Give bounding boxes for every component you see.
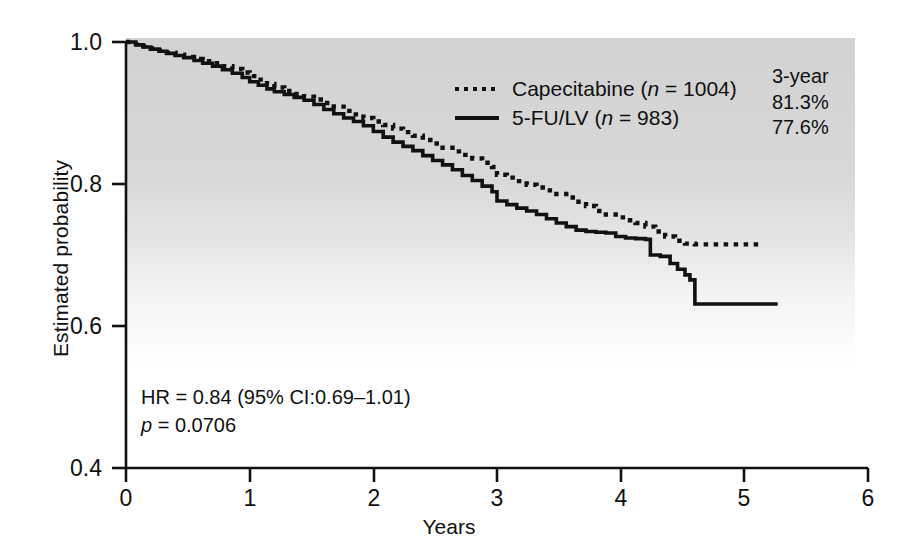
summary-header: 3-year: [772, 64, 829, 90]
x-tick-label-0: 0: [106, 487, 146, 510]
legend-label-5-fu-lv: 5-FU/LV (n = 983): [512, 106, 679, 130]
summary-value-5-fu-lv: 77.6%: [772, 115, 829, 141]
legend-label-capecitabine-tail: = 1004): [659, 77, 737, 100]
hazard-ratio-text: HR = 0.84 (95% CI:0.69–1.01): [141, 383, 411, 411]
x-tick-label-1: 1: [230, 487, 270, 510]
three-year-summary: 3-year 81.3% 77.6%: [772, 64, 829, 141]
p-value-symbol: p: [141, 414, 152, 436]
legend-label-capecitabine-main: Capecitabine (: [512, 77, 647, 100]
legend-label-5-fu-lv-main: 5-FU/LV (: [512, 106, 601, 129]
summary-value-capecitabine: 81.3%: [772, 90, 829, 116]
x-axis-title: Years: [0, 516, 898, 537]
x-tick-label-6: 6: [848, 487, 888, 510]
x-tick-label-2: 2: [354, 487, 394, 510]
survival-curve-figure: 1.0 0.8 0.6 0.4 0 1 2 3 4 5 6 Estimated …: [0, 0, 898, 560]
x-axis-ticks: [126, 468, 868, 482]
x-tick-label-4: 4: [601, 487, 641, 510]
plot-canvas: [0, 0, 898, 560]
p-value-text: p = 0.0706: [141, 411, 411, 439]
p-value-number: = 0.0706: [152, 414, 236, 436]
legend-item-5-fu-lv: 5-FU/LV (n = 983): [455, 103, 737, 132]
legend-item-capecitabine: Capecitabine (n = 1004): [455, 74, 737, 103]
legend-label-capecitabine: Capecitabine (n = 1004): [512, 77, 737, 101]
legend-label-capecitabine-n: n: [647, 77, 659, 100]
y-axis-ticks: [112, 42, 126, 468]
legend-label-5-fu-lv-tail: = 983): [613, 106, 679, 129]
x-tick-label-3: 3: [477, 487, 517, 510]
legend-swatch-solid-icon: [455, 111, 499, 125]
x-tick-label-5: 5: [724, 487, 764, 510]
legend-label-5-fu-lv-n: n: [601, 106, 613, 129]
legend: Capecitabine (n = 1004) 5-FU/LV (n = 983…: [455, 74, 737, 132]
statistics-annotation: HR = 0.84 (95% CI:0.69–1.01) p = 0.0706: [141, 383, 411, 439]
y-axis-title: Estimated probability: [50, 49, 71, 469]
legend-swatch-dotted-icon: [455, 82, 499, 96]
